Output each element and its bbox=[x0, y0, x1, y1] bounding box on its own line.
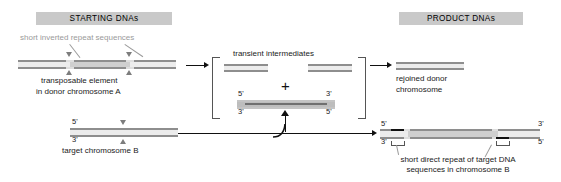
target-inner-fill bbox=[70, 130, 178, 135]
product-five-prime-left: 5' bbox=[381, 120, 387, 128]
target-insertion-marker-bottom bbox=[120, 139, 126, 144]
cut-site-marker-top-left bbox=[66, 52, 72, 57]
transposable-element-body bbox=[70, 62, 130, 67]
excised-three-prime-right: 3' bbox=[326, 90, 332, 98]
excised-core-band bbox=[245, 103, 327, 105]
donor-fragment-left bbox=[224, 64, 268, 72]
intermediate-bracket-left bbox=[212, 57, 220, 119]
product-caption-line1: short direct repeat of target DNA bbox=[383, 155, 533, 166]
donor-fragment-right bbox=[308, 64, 352, 72]
insert-junction-left bbox=[404, 129, 410, 131]
insert-junction-right bbox=[492, 129, 498, 131]
donor-caption-line1: transposable element bbox=[41, 76, 118, 86]
starting-dnas-title: STARTING DNAs bbox=[70, 14, 139, 23]
fragment-left-fill bbox=[224, 66, 268, 70]
direct-repeat-bracket-right bbox=[496, 141, 510, 146]
inserted-element-body bbox=[408, 131, 498, 137]
excised-five-prime-left: 5' bbox=[238, 90, 244, 98]
target-insertion-marker-top bbox=[120, 120, 126, 125]
fragment-right-fill bbox=[308, 66, 352, 70]
direct-repeat-block-top bbox=[391, 129, 404, 132]
excised-three-prime-left: 3' bbox=[238, 108, 244, 116]
intermediate-bracket-right bbox=[358, 57, 366, 119]
fragment-left-bottom-strand bbox=[224, 70, 268, 72]
rejoined-donor-duplex bbox=[396, 62, 464, 70]
insertion-curve bbox=[272, 118, 312, 138]
product-chromosome-duplex bbox=[380, 129, 540, 139]
direct-repeat-bracket-left bbox=[391, 141, 405, 146]
rejoined-fill bbox=[396, 64, 464, 68]
donor-chromosome-duplex bbox=[18, 60, 176, 69]
transient-intermediates-caption: transient intermediates bbox=[233, 49, 314, 59]
inverted-repeat-left bbox=[66, 60, 74, 62]
arrow-intermediate-to-product-head bbox=[387, 62, 392, 68]
product-dnas-title: PRODUCT DNAs bbox=[427, 14, 495, 23]
excised-five-prime-right: 5' bbox=[326, 108, 332, 116]
product-five-prime-right: 5' bbox=[538, 138, 544, 146]
target-five-prime-label: 5' bbox=[72, 118, 78, 126]
insertion-arrow-head bbox=[281, 110, 289, 116]
direct-repeat-leader-left bbox=[396, 145, 399, 155]
target-chromosome-caption: target chromosome B bbox=[62, 146, 138, 156]
arrow-intermediate-to-product-line bbox=[370, 65, 388, 66]
rejoined-caption-line2: chromosome bbox=[396, 85, 442, 95]
donor-caption-line2: in donor chromosome A bbox=[36, 87, 121, 97]
cut-site-marker-bottom-left bbox=[66, 70, 72, 75]
plus-symbol: + bbox=[281, 78, 290, 93]
target-bottom-strand bbox=[70, 135, 178, 137]
inverted-repeat-annotation: short inverted repeat sequences bbox=[20, 33, 134, 43]
cut-site-marker-top-right bbox=[126, 52, 132, 57]
product-caption-line2: sequences in chromosome B bbox=[383, 165, 533, 176]
direct-repeat-block-bottom bbox=[496, 137, 509, 140]
starting-dnas-banner: STARTING DNAs bbox=[36, 12, 172, 25]
insert-junction-left-bot bbox=[404, 137, 410, 139]
target-chromosome-duplex bbox=[70, 128, 178, 137]
target-three-prime-label: 3' bbox=[72, 136, 78, 144]
inverted-repeat-right bbox=[126, 60, 134, 62]
product-dnas-banner: PRODUCT DNAs bbox=[399, 12, 523, 25]
donor-bottom-strand bbox=[18, 67, 176, 69]
excised-bottom-strand bbox=[237, 107, 335, 109]
rejoined-bottom-strand bbox=[396, 68, 464, 70]
product-three-prime-left: 3' bbox=[381, 138, 387, 146]
arrow-donor-to-intermediate-line bbox=[186, 65, 205, 66]
product-three-prime-right: 3' bbox=[538, 120, 544, 128]
inverted-repeat-right-bot bbox=[126, 67, 134, 69]
excised-transposon-duplex bbox=[237, 100, 335, 109]
arrow-target-to-product-head bbox=[372, 130, 377, 136]
rejoined-caption-line1: rejoined donor bbox=[396, 74, 447, 84]
inverted-repeat-left-bot bbox=[66, 67, 74, 69]
fragment-right-bottom-strand bbox=[308, 70, 352, 72]
arrow-donor-to-intermediate-head bbox=[204, 62, 209, 68]
cut-site-marker-bottom-right bbox=[126, 70, 132, 75]
